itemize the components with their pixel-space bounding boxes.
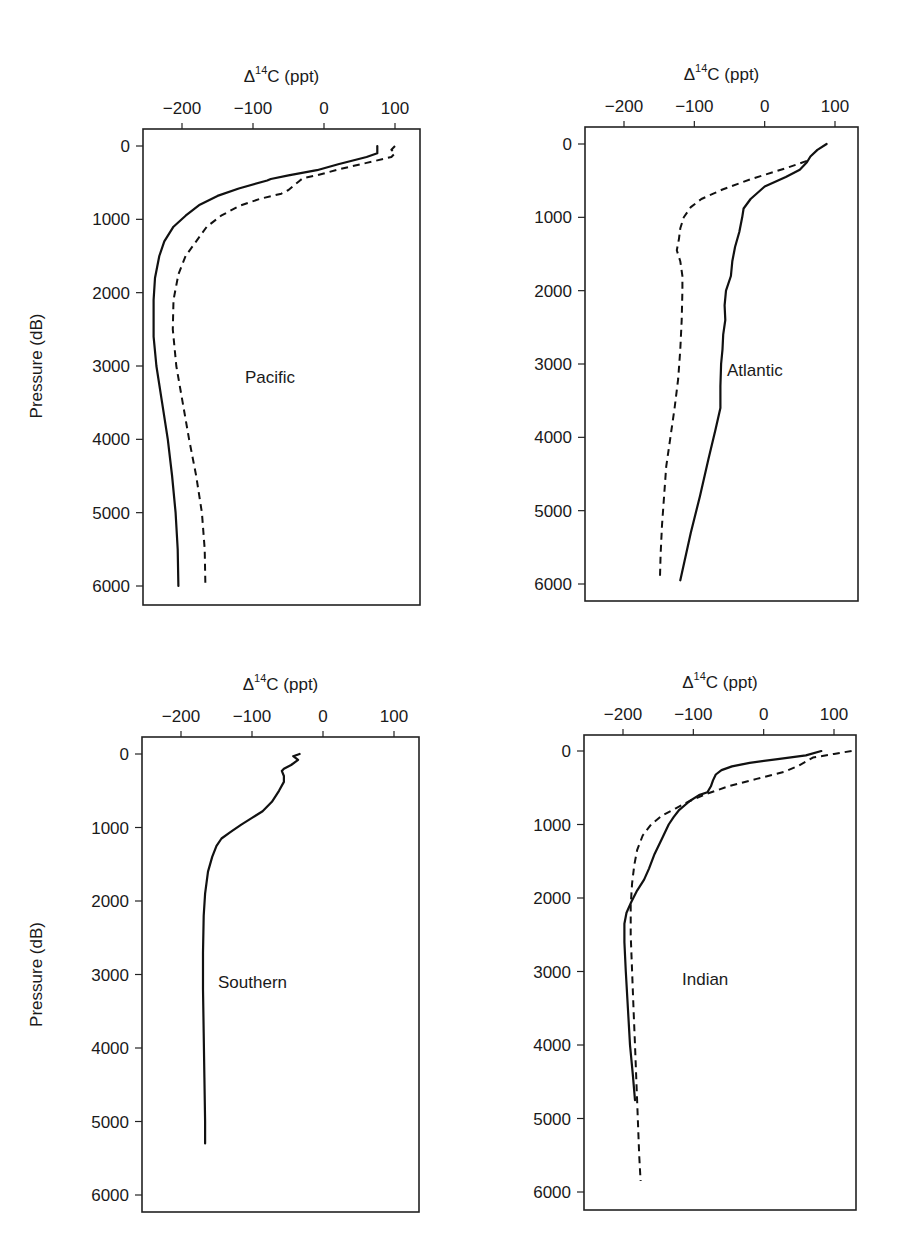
y-tick-label: 3000 bbox=[533, 963, 571, 982]
x-tick-label: −100 bbox=[674, 705, 712, 724]
x-tick-label: 100 bbox=[821, 97, 849, 116]
y-tick-label: 1000 bbox=[533, 816, 571, 835]
y-tick-label: 3000 bbox=[92, 357, 130, 376]
indian-panel: Δ14C (ppt)−200−1000100010002000300040005… bbox=[533, 670, 856, 1210]
ocean-radiocarbon-figure: Δ14C (ppt)−200−1000100010002000300040005… bbox=[0, 0, 897, 1247]
x-tick-label: 0 bbox=[760, 97, 769, 116]
x-axis-title: Δ14C (ppt) bbox=[682, 670, 758, 692]
atlantic-panel: Δ14C (ppt)−200−1000100010002000300040005… bbox=[534, 62, 858, 601]
x-tick-label: −100 bbox=[234, 99, 272, 118]
pacific-panel: Δ14C (ppt)−200−1000100010002000300040005… bbox=[27, 64, 420, 605]
southern-panel: Δ14C (ppt)−200−1000100010002000300040005… bbox=[27, 672, 419, 1212]
y-tick-label: 5000 bbox=[533, 1110, 571, 1129]
x-tick-label: 0 bbox=[319, 99, 328, 118]
x-tick-label: −200 bbox=[162, 707, 200, 726]
y-tick-label: 4000 bbox=[91, 1039, 129, 1058]
y-tick-label: 1000 bbox=[534, 208, 572, 227]
y-tick-label: 1000 bbox=[92, 210, 130, 229]
truncated-caption bbox=[0, 1236, 897, 1247]
x-tick-label: 100 bbox=[380, 707, 408, 726]
y-tick-label: 5000 bbox=[91, 1113, 129, 1132]
y-tick-label: 2000 bbox=[92, 284, 130, 303]
x-tick-label: −100 bbox=[233, 707, 271, 726]
y-axis-title: Pressure (dB) bbox=[27, 922, 46, 1027]
y-tick-label: 0 bbox=[562, 742, 571, 761]
y-tick-label: 1000 bbox=[91, 819, 129, 838]
solid-profile-line bbox=[624, 751, 821, 1100]
y-tick-label: 0 bbox=[120, 745, 129, 764]
x-tick-label: 100 bbox=[381, 99, 409, 118]
y-tick-label: 3000 bbox=[534, 355, 572, 374]
y-tick-label: 6000 bbox=[533, 1183, 571, 1202]
x-tick-label: 100 bbox=[820, 705, 848, 724]
dashed-profile-line bbox=[631, 751, 852, 1181]
y-tick-label: 0 bbox=[121, 137, 130, 156]
x-tick-label: 0 bbox=[759, 705, 768, 724]
solid-profile-line bbox=[154, 146, 378, 586]
x-tick-label: 0 bbox=[318, 707, 327, 726]
x-axis-title: Δ14C (ppt) bbox=[243, 672, 319, 694]
y-tick-label: 2000 bbox=[534, 282, 572, 301]
y-tick-label: 0 bbox=[563, 135, 572, 154]
ocean-basin-label: Atlantic bbox=[727, 361, 783, 380]
ocean-basin-label: Indian bbox=[682, 970, 728, 989]
plot-frame bbox=[143, 129, 420, 605]
y-tick-label: 5000 bbox=[92, 504, 130, 523]
x-axis-title: Δ14C (ppt) bbox=[684, 62, 760, 84]
y-tick-label: 6000 bbox=[91, 1186, 129, 1205]
y-tick-label: 4000 bbox=[534, 428, 572, 447]
x-tick-label: −200 bbox=[163, 99, 201, 118]
y-tick-label: 4000 bbox=[533, 1036, 571, 1055]
y-tick-label: 6000 bbox=[92, 577, 130, 596]
y-tick-label: 4000 bbox=[92, 430, 130, 449]
dashed-profile-line bbox=[173, 146, 395, 586]
x-tick-label: −100 bbox=[675, 97, 713, 116]
y-tick-label: 6000 bbox=[534, 575, 572, 594]
y-tick-label: 2000 bbox=[533, 889, 571, 908]
y-tick-label: 2000 bbox=[91, 892, 129, 911]
y-tick-label: 3000 bbox=[91, 966, 129, 985]
x-tick-label: −200 bbox=[604, 705, 642, 724]
ocean-basin-label: Southern bbox=[218, 973, 287, 992]
x-tick-label: −200 bbox=[605, 97, 643, 116]
y-tick-label: 5000 bbox=[534, 502, 572, 521]
solid-profile-line bbox=[203, 754, 300, 1144]
ocean-basin-label: Pacific bbox=[245, 368, 296, 387]
x-axis-title: Δ14C (ppt) bbox=[244, 64, 320, 86]
y-axis-title: Pressure (dB) bbox=[27, 314, 46, 419]
